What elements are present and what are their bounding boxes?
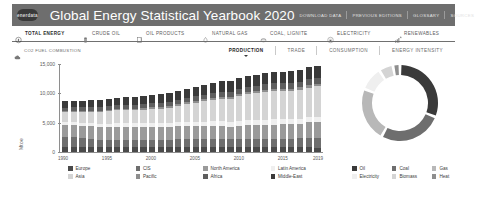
nav-item-total-energy[interactable]: TOTAL ENERGY [15,30,65,38]
bar-2005[interactable] [193,87,199,152]
bar-1990[interactable] [62,101,68,152]
bar-2008[interactable] [219,81,225,152]
bar-2013[interactable] [262,73,268,152]
bar-segment [71,147,77,152]
bar-2000[interactable] [149,95,155,152]
legend-swatch [68,174,73,179]
bar-1995[interactable] [106,99,112,152]
bar-segment [158,140,164,147]
donut-legend-item-heat[interactable]: Heat [432,174,472,179]
legend-label: Biomass [399,174,417,179]
bar-segment [219,126,225,139]
bar-1996[interactable] [114,98,120,152]
chart-panel: Mtoe 05,00010,00015,000 1990199520002005… [12,58,455,198]
donut-slice-biomass[interactable] [381,66,394,79]
donut-chart-panel [345,60,455,160]
nav-item-electricity[interactable]: ELECTRICITY [327,30,371,38]
donut-legend-item-gas[interactable]: Gas [432,166,472,171]
bar-segment [132,140,138,147]
tab-production[interactable]: PRODUCTION [217,43,276,58]
coal-icon [260,30,267,38]
bar-segment [219,139,225,148]
bar-2014[interactable] [271,72,277,152]
bar-segment [158,147,164,152]
nav-item-natural-gas[interactable]: NATURAL GAS [202,30,248,38]
bar-2015[interactable] [280,72,286,152]
header-link-glossary[interactable]: GLOSSARY [408,13,444,18]
sidebar-item-co2-fuel-combustion[interactable]: CO2 FUEL COMBUSTION [14,47,81,54]
legend-item-europe[interactable]: Europe [68,166,136,171]
header-link-previous-editions[interactable]: PREVIOUS EDITIONS [347,13,407,18]
bar-segment [62,125,68,137]
donut-slice-oil[interactable] [401,65,438,116]
bar-1998[interactable] [132,97,138,152]
bar-2009[interactable] [227,81,233,152]
bar-segment [201,101,207,121]
bar-2003[interactable] [175,91,181,152]
legend-label: Africa [211,174,223,179]
nav-item-oil-products[interactable]: OIL PRODUCTS [136,30,185,38]
header-link-sources[interactable]: SOURCES [445,13,479,18]
bar-segment [262,73,268,84]
bar-2016[interactable] [288,71,294,152]
bar-segment [236,139,242,147]
bar-2011[interactable] [245,76,251,152]
nav-item-renewables[interactable]: RENEWABLES [394,30,439,38]
bar-1993[interactable] [88,100,94,152]
bar-2007[interactable] [210,83,216,152]
header-link-download-data[interactable]: DOWNLOAD DATA [295,13,347,18]
bar-1991[interactable] [71,101,77,152]
donut-slice-electricity[interactable] [365,72,384,92]
bar-1994[interactable] [97,100,103,152]
nav-item-coal-lignite[interactable]: COAL, LIGNITE [260,30,307,38]
legend-item-africa[interactable]: Africa [203,174,271,179]
legend-swatch [203,166,208,171]
legend-item-pacific[interactable]: Pacific [136,174,204,179]
bar-segment [140,96,146,104]
tab-consumption[interactable]: CONSUMPTION [317,43,380,58]
donut-legend-item-biomass[interactable]: Biomass [392,174,432,179]
bar-1997[interactable] [123,97,129,152]
bar-2019[interactable] [314,66,320,152]
bar-2010[interactable] [236,78,242,152]
bar-segment [62,147,68,152]
donut-legend-item-electricity[interactable]: Electricity [352,174,392,179]
bar-segment [166,140,172,147]
legend-item-latin-america[interactable]: Latin America [271,166,339,171]
donut-legend-item-oil[interactable]: Oil [352,166,392,171]
bar-2004[interactable] [184,89,190,152]
tab-energy-intensity[interactable]: ENERGY INTENSITY [380,43,455,58]
legend-label: North America [211,166,240,171]
bar-2017[interactable] [297,70,303,152]
bar-1992[interactable] [79,101,85,152]
nav-item-crude-oil[interactable]: CRUDE OIL [82,30,120,38]
bar-2002[interactable] [166,93,172,152]
nav-item-label: CRUDE OIL [92,31,120,36]
bar-2006[interactable] [201,85,207,152]
donut-slice-heat[interactable] [394,65,399,75]
donut-slice-gas[interactable] [362,90,386,135]
bar-segment [184,147,190,152]
bar-2001[interactable] [158,94,164,152]
bar-segment [271,147,277,152]
legend-item-north-america[interactable]: North America [203,166,271,171]
bar-segment [201,139,207,147]
bar-segment [88,147,94,152]
enerdata-logo-icon[interactable]: enerdata [17,9,38,21]
legend-item-middle-east[interactable]: Middle-East [271,174,339,179]
bar-2018[interactable] [306,67,312,152]
x-axis-tick-label: 1990 [58,156,68,161]
tab-trade[interactable]: TRADE [276,43,318,58]
legend-item-cis[interactable]: CIS [136,166,204,171]
flash-circle-icon [15,30,22,38]
donut-slice-coal[interactable] [383,114,435,141]
legend-label: Latin America [278,166,306,171]
legend-swatch [392,174,397,179]
bar-2012[interactable] [253,75,259,152]
bar-segment [79,101,85,108]
legend-item-asia[interactable]: Asia [68,174,136,179]
bar-segment [123,97,129,105]
bar-segment [253,147,259,152]
donut-legend-item-coal[interactable]: Coal [392,166,432,171]
bar-1999[interactable] [140,96,146,152]
